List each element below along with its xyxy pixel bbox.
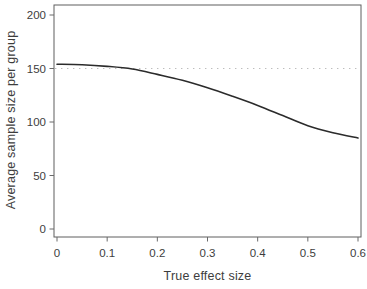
- y-axis-tick-label: 50: [33, 170, 46, 182]
- y-axis-tick-label: 100: [27, 116, 46, 128]
- x-axis-tick-label: 0.4: [250, 247, 267, 259]
- y-axis-title: Average sample size per group: [4, 4, 18, 236]
- x-axis-title: True effect size: [54, 269, 361, 283]
- chart-figure: 00.10.20.30.40.50.6050100150200 True eff…: [0, 0, 367, 289]
- chart-canvas: 00.10.20.30.40.50.6050100150200: [0, 0, 367, 289]
- plot-box: [54, 5, 361, 237]
- x-axis-tick-label: 0.5: [300, 247, 316, 259]
- x-axis-tick-label: 0.3: [200, 247, 216, 259]
- y-axis-tick-label: 200: [27, 9, 46, 21]
- x-axis-tick-label: 0.6: [350, 247, 366, 259]
- y-axis-tick-label: 150: [27, 63, 46, 75]
- y-axis-tick-label: 0: [40, 223, 46, 235]
- x-axis-tick-label: 0.2: [149, 247, 165, 259]
- average-sample-size-curve: [57, 64, 358, 138]
- x-axis-tick-label: 0: [54, 247, 60, 259]
- x-axis-tick-label: 0.1: [99, 247, 115, 259]
